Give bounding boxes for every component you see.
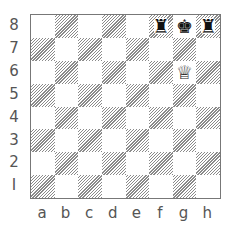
black-rook-icon[interactable]: ♜ (152, 17, 169, 36)
square-d7[interactable] (102, 38, 126, 61)
square-e5[interactable] (126, 84, 150, 107)
square-c3[interactable] (78, 129, 102, 152)
square-g3[interactable] (173, 129, 197, 152)
square-e7[interactable] (126, 38, 150, 61)
square-g8[interactable]: ♚ (173, 15, 197, 38)
file-label-b: b (58, 206, 74, 221)
rank-label-2: 2 (6, 155, 22, 170)
square-b3[interactable] (55, 129, 79, 152)
square-h2[interactable] (196, 152, 220, 175)
rank-label-7: 7 (6, 41, 22, 56)
file-label-c: c (81, 206, 97, 221)
square-g1[interactable] (173, 175, 197, 198)
square-b6[interactable] (55, 61, 79, 84)
square-h4[interactable] (196, 107, 220, 130)
file-label-g: g (176, 206, 192, 221)
square-d6[interactable] (102, 61, 126, 84)
black-king-icon[interactable]: ♚ (176, 17, 193, 36)
file-label-h: h (199, 206, 215, 221)
square-e3[interactable] (126, 129, 150, 152)
chess-board: ♜♚♜♕ (30, 14, 221, 199)
square-f1[interactable] (149, 175, 173, 198)
square-f2[interactable] (149, 152, 173, 175)
file-label-a: a (34, 206, 50, 221)
file-label-e: e (128, 206, 144, 221)
square-b5[interactable] (55, 84, 79, 107)
square-d3[interactable] (102, 129, 126, 152)
square-a1[interactable] (31, 175, 55, 198)
file-label-f: f (152, 206, 168, 221)
square-a8[interactable] (31, 15, 55, 38)
square-c5[interactable] (78, 84, 102, 107)
square-e1[interactable] (126, 175, 150, 198)
square-a5[interactable] (31, 84, 55, 107)
square-d1[interactable] (102, 175, 126, 198)
square-b4[interactable] (55, 107, 79, 130)
square-a4[interactable] (31, 107, 55, 130)
square-e2[interactable] (126, 152, 150, 175)
rank-label-8: 8 (6, 18, 22, 33)
square-b7[interactable] (55, 38, 79, 61)
square-a6[interactable] (31, 61, 55, 84)
square-f4[interactable] (149, 107, 173, 130)
square-f3[interactable] (149, 129, 173, 152)
square-h3[interactable] (196, 129, 220, 152)
square-g4[interactable] (173, 107, 197, 130)
square-c1[interactable] (78, 175, 102, 198)
square-h6[interactable] (196, 61, 220, 84)
square-c2[interactable] (78, 152, 102, 175)
square-f8[interactable]: ♜ (149, 15, 173, 38)
square-a3[interactable] (31, 129, 55, 152)
square-f5[interactable] (149, 84, 173, 107)
square-b2[interactable] (55, 152, 79, 175)
square-a2[interactable] (31, 152, 55, 175)
square-h5[interactable] (196, 84, 220, 107)
square-g6[interactable]: ♕ (173, 61, 197, 84)
square-d4[interactable] (102, 107, 126, 130)
square-g7[interactable] (173, 38, 197, 61)
square-d2[interactable] (102, 152, 126, 175)
square-e4[interactable] (126, 107, 150, 130)
square-b1[interactable] (55, 175, 79, 198)
square-e6[interactable] (126, 61, 150, 84)
square-e8[interactable] (126, 15, 150, 38)
square-c4[interactable] (78, 107, 102, 130)
rank-label-5: 5 (6, 87, 22, 102)
square-a7[interactable] (31, 38, 55, 61)
square-c7[interactable] (78, 38, 102, 61)
square-h7[interactable] (196, 38, 220, 61)
square-c8[interactable] (78, 15, 102, 38)
black-rook-icon[interactable]: ♜ (200, 17, 217, 36)
white-queen-icon[interactable]: ♕ (176, 63, 193, 82)
square-g2[interactable] (173, 152, 197, 175)
file-label-d: d (105, 206, 121, 221)
rank-label-6: 6 (6, 64, 22, 79)
square-g5[interactable] (173, 84, 197, 107)
square-d5[interactable] (102, 84, 126, 107)
square-d8[interactable] (102, 15, 126, 38)
square-h8[interactable]: ♜ (196, 15, 220, 38)
square-b8[interactable] (55, 15, 79, 38)
rank-label-4: 4 (6, 110, 22, 125)
square-f7[interactable] (149, 38, 173, 61)
square-c6[interactable] (78, 61, 102, 84)
square-h1[interactable] (196, 175, 220, 198)
square-f6[interactable] (149, 61, 173, 84)
rank-label-1: I (6, 178, 22, 193)
rank-label-3: 3 (6, 133, 22, 148)
